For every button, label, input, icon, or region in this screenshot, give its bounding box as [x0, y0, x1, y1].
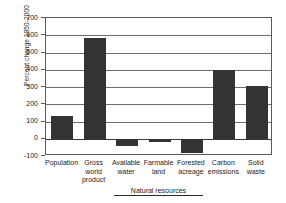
gridline-500 [46, 53, 271, 54]
y-tick--100 [41, 155, 45, 156]
y-tick-label--100: -100 [0, 152, 38, 159]
gridline-200 [46, 104, 271, 105]
bracket-line [114, 195, 203, 196]
gridline-100 [46, 122, 271, 123]
y-tick-label-700: 700 [0, 14, 38, 21]
bar-solid-waste [246, 86, 268, 139]
x-label-available-water: Availablewater [110, 159, 142, 176]
bar-gross-world-product [84, 38, 106, 139]
x-label-population: Population [45, 159, 77, 168]
y-tick-label-300: 300 [0, 83, 38, 90]
bar-available-water [116, 139, 138, 146]
gridline-400 [46, 70, 271, 71]
x-label-gross-world-product: Grossworldproduct [77, 159, 109, 185]
y-tick-label-400: 400 [0, 65, 38, 72]
y-tick-label-600: 600 [0, 31, 38, 38]
gridline-300 [46, 87, 271, 88]
x-label-carbon-emissions: Carbonemissions [207, 159, 239, 176]
y-tick-label-0: 0 [0, 134, 38, 141]
natural-resources-bracket: Natural resources [114, 186, 203, 198]
gridline-600 [46, 35, 271, 36]
x-label-solid-waste: Solidwaste [240, 159, 272, 176]
bar-forested-acreage [181, 139, 203, 153]
y-tick-label-500: 500 [0, 48, 38, 55]
bar-population [51, 116, 73, 138]
bar-farmable-land [149, 139, 171, 142]
bar-chart: Percent change 1950-2000 700600500400300… [0, 0, 286, 203]
x-label-forested-acreage: Forestedacreage [175, 159, 207, 176]
y-tick-label-100: 100 [0, 117, 38, 124]
x-label-farmable-land: Farmableland [142, 159, 174, 176]
plot-area [45, 17, 272, 155]
bar-carbon-emissions [213, 70, 235, 139]
bracket-label: Natural resources [114, 187, 203, 195]
y-tick-label-200: 200 [0, 100, 38, 107]
